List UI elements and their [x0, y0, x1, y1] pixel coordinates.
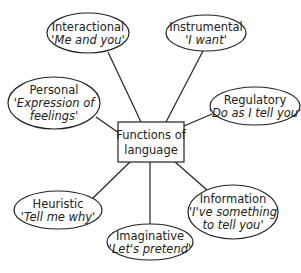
center-box: Functions of language	[116, 122, 187, 162]
connector-regulatory	[184, 114, 212, 126]
connector-heuristic	[92, 161, 131, 199]
node-subtitle: 'Tell me why'	[21, 210, 95, 224]
node-subtitle: to tell you'	[202, 218, 263, 232]
node-subtitle: 'Expression of	[14, 96, 97, 110]
node-title: Regulatory	[224, 93, 287, 107]
node-personal: Personal'Expression offeelings'	[8, 77, 100, 129]
node-title: Information	[200, 192, 267, 206]
functions-of-language-diagram: Interactional'Me and you'Instrumental'I …	[0, 0, 301, 273]
node-title: Heuristic	[33, 197, 84, 211]
node-title: Personal	[30, 83, 79, 97]
connector-information	[174, 161, 207, 190]
node-subtitle: feelings'	[30, 109, 78, 123]
connector-interactional	[108, 52, 141, 122]
node-title: Instrumental	[169, 20, 243, 34]
node-subtitle: 'Me and you'	[51, 33, 124, 47]
center-label-line-1: Functions of	[116, 128, 187, 142]
connector-instrumental	[166, 51, 203, 122]
node-subtitle: 'Let's pretend'	[109, 242, 191, 256]
node-instrumental: Instrumental'I want'	[166, 15, 246, 51]
node-title: Imaginative	[116, 229, 184, 243]
node-title: Interactional	[52, 20, 125, 34]
node-heuristic: Heuristic'Tell me why'	[14, 191, 102, 229]
node-subtitle: 'I've something	[189, 205, 277, 219]
node-information: Information'I've somethingto tell you'	[188, 185, 278, 239]
node-subtitle: 'Do as I tell you'	[209, 106, 301, 120]
node-imaginative: Imaginative'Let's pretend'	[107, 224, 193, 260]
node-regulatory: Regulatory'Do as I tell you'	[209, 87, 301, 125]
center-label-line-2: language	[124, 143, 178, 157]
node-subtitle: 'I want'	[185, 33, 227, 47]
node-interactional: Interactional'Me and you'	[47, 13, 129, 53]
